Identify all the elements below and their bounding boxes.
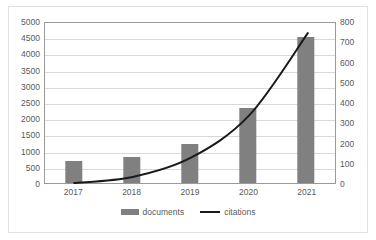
left-axis-tick: 3000 xyxy=(21,83,40,92)
citations-line-series xyxy=(45,23,337,185)
left-axis-tick: 1500 xyxy=(21,131,40,140)
category-axis: 20172018201920202021 xyxy=(44,188,336,202)
bar-swatch-icon xyxy=(121,209,139,215)
left-axis-tick: 4000 xyxy=(21,50,40,59)
left-axis-tick: 4500 xyxy=(21,34,40,43)
chart-container: 0500100015002000250030003500400045005000… xyxy=(0,0,376,240)
legend-item-citations[interactable]: citations xyxy=(200,208,255,217)
right-axis-tick: 400 xyxy=(340,99,354,108)
right-axis-tick: 100 xyxy=(340,160,354,169)
right-axis-tick: 300 xyxy=(340,119,354,128)
left-axis-tick: 500 xyxy=(26,164,40,173)
category-tick: 2021 xyxy=(278,188,336,202)
category-tick: 2019 xyxy=(161,188,219,202)
left-axis-tick: 2000 xyxy=(21,115,40,124)
right-axis-tick: 200 xyxy=(340,140,354,149)
legend-label-documents: documents xyxy=(143,208,185,217)
left-axis-tick: 1000 xyxy=(21,148,40,157)
right-value-axis: 0100200300400500600700800 xyxy=(340,22,374,184)
chart-legend: documents citations xyxy=(0,208,376,217)
left-axis-tick: 2500 xyxy=(21,99,40,108)
right-axis-tick: 700 xyxy=(340,38,354,47)
plot-area xyxy=(44,22,336,184)
legend-item-documents[interactable]: documents xyxy=(121,208,185,217)
right-axis-tick: 500 xyxy=(340,79,354,88)
left-axis-tick: 5000 xyxy=(21,18,40,27)
left-axis-tick: 0 xyxy=(35,180,40,189)
legend-label-citations: citations xyxy=(224,208,255,217)
left-axis-tick: 3500 xyxy=(21,67,40,76)
category-tick: 2018 xyxy=(102,188,160,202)
right-axis-tick: 600 xyxy=(340,59,354,68)
category-tick: 2020 xyxy=(219,188,277,202)
left-value-axis: 0500100015002000250030003500400045005000 xyxy=(0,22,40,184)
line-swatch-icon xyxy=(200,211,220,213)
right-axis-tick: 0 xyxy=(340,180,345,189)
category-tick: 2017 xyxy=(44,188,102,202)
right-axis-tick: 800 xyxy=(340,18,354,27)
